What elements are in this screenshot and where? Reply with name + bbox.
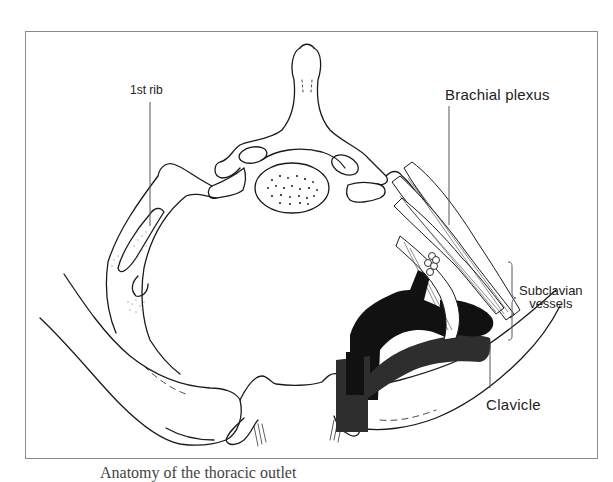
figure-caption-cropped: Anatomy of the thoracic outlet [100,464,296,482]
label-subclavian-vessels: Subclavian vessels [519,284,583,310]
vertebral-body-texture [267,175,318,205]
label-clavicle: Clavicle [486,397,541,412]
left-first-rib [106,164,216,374]
vertebra [209,44,388,213]
left-clavicle [40,274,241,445]
label-first-rib: 1st rib [130,84,163,96]
label-subclavian-line2: vessels [519,297,583,310]
label-brachial-plexus: Brachial plexus [445,87,550,102]
subclavian-vessels [336,270,493,432]
